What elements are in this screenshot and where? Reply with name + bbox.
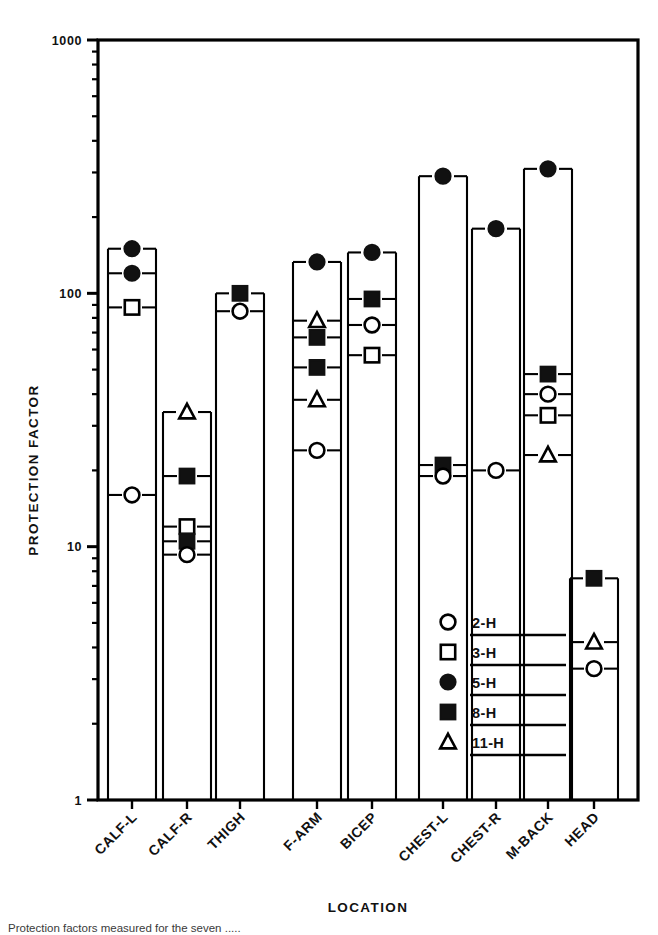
data-point-filled-square (587, 571, 602, 586)
data-point-filled-circle (540, 161, 555, 176)
data-point-filled-square (441, 705, 456, 720)
data-point-open-circle (365, 318, 380, 333)
data-point-filled-square (180, 469, 195, 484)
y-tick-label: 1 (74, 794, 82, 808)
data-point-filled-circle (488, 221, 503, 236)
legend-label: 2-H (472, 615, 497, 631)
figure-container: 1000100101 PROTECTION FACTOR CALF-LCALF-… (0, 0, 658, 935)
data-point-filled-circle (124, 241, 139, 256)
data-point-open-circle (436, 469, 451, 484)
data-point-open-circle (541, 387, 556, 402)
y-axis: 1000100101 (52, 34, 98, 808)
data-point-open-square (365, 348, 379, 362)
data-point-filled-circle (435, 169, 450, 184)
data-point-filled-circle (440, 674, 455, 689)
y-tick-label: 10 (67, 540, 82, 554)
y-tick-label: 1000 (52, 34, 82, 48)
data-point-filled-square (310, 360, 325, 375)
x-category-label-chest-r: CHEST-R (447, 809, 504, 866)
data-point-filled-square (365, 292, 380, 307)
caption-text: Protection factors measured for the seve… (8, 922, 241, 934)
x-category-label-calf-r: CALF-R (145, 809, 195, 859)
data-point-open-circle (180, 547, 195, 562)
data-point-open-circle (489, 463, 504, 478)
y-axis-title: PROTECTION FACTOR (26, 384, 41, 555)
data-point-filled-square (310, 330, 325, 345)
legend-label: 11-H (472, 735, 504, 751)
data-point-filled-circle (364, 245, 379, 260)
protection-factor-chart: 1000100101 PROTECTION FACTOR CALF-LCALF-… (0, 0, 658, 935)
data-point-open-square (541, 408, 555, 422)
x-category-label-chest-l: CHEST-L (395, 809, 451, 865)
data-point-open-square (125, 300, 139, 314)
legend-label: 5-H (472, 675, 497, 691)
data-point-filled-square (541, 367, 556, 382)
legend-label: 3-H (472, 645, 497, 661)
data-point-open-circle (310, 443, 325, 458)
x-axis: CALF-LCALF-RTHIGHF-ARMBICEPCHEST-LCHEST-… (91, 800, 602, 866)
y-tick-label: 100 (59, 287, 82, 301)
data-point-open-circle (441, 615, 456, 630)
data-point-filled-square (233, 286, 248, 301)
x-category-label-bicep: BICEP (337, 809, 380, 852)
x-category-label-thigh: THIGH (204, 809, 248, 853)
data-point-filled-circle (124, 266, 139, 281)
plot-frame (98, 40, 638, 800)
data-point-open-square (441, 645, 455, 659)
data-point-open-square (180, 519, 194, 533)
x-category-label-head: HEAD (561, 809, 602, 850)
x-category-label-m-back: M-BACK (503, 809, 557, 863)
data-point-open-circle (125, 488, 140, 503)
x-axis-title: LOCATION (328, 900, 409, 915)
data-point-open-circle (587, 661, 602, 676)
x-category-label-f-arm: F-ARM (280, 809, 325, 854)
data-point-filled-circle (309, 254, 324, 269)
legend-label: 8-H (472, 705, 497, 721)
data-point-open-circle (233, 304, 248, 319)
x-category-label-calf-l: CALF-L (91, 809, 140, 858)
figure-caption: Protection factors measured for the seve… (8, 922, 241, 934)
